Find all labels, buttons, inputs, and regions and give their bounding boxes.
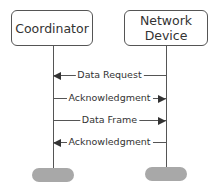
participant-network-device-label-line2: Device [145,28,188,43]
arrow-left-icon [53,139,61,147]
network-device-lifeline [166,46,167,170]
network-device-lifeline-end [145,167,187,181]
arrow-right-icon [158,95,166,103]
participant-coordinator-label: Coordinator [15,21,89,36]
message-data-request: Data Request [53,69,166,81]
participant-network-device: Network Device [124,10,208,46]
participant-coordinator: Coordinator [11,10,93,46]
participant-network-device-label-line1: Network [140,13,192,28]
message-label: Data Frame [80,114,139,126]
arrow-left-icon [53,72,61,80]
message-acknowledgment-2: Acknowledgment [53,136,166,148]
message-label: Acknowledgment [66,92,152,104]
message-label: Data Request [75,69,143,81]
coordinator-lifeline [53,46,54,170]
arrow-right-icon [158,117,166,125]
message-acknowledgment-1: Acknowledgment [53,92,166,104]
message-data-frame: Data Frame [53,114,166,126]
message-label: Acknowledgment [66,136,152,148]
coordinator-lifeline-end [32,168,74,182]
